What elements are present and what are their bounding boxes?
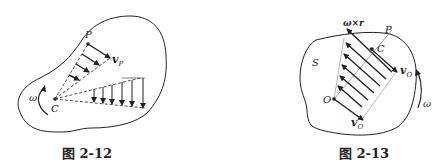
omega-rotation-arrow-icon — [418, 72, 421, 108]
label-omega: ω — [29, 92, 37, 103]
point-p-dot — [86, 42, 90, 46]
omega-rotation-arrow-icon — [38, 88, 48, 115]
label-p: P — [384, 24, 392, 35]
label-vp: vP — [112, 53, 123, 68]
figure-2-13-drawing: ω×r P C S vO ω O vO — [220, 0, 443, 168]
label-vo-top: vO — [400, 64, 412, 79]
rigid-body-s-outline — [300, 32, 416, 135]
label-p: P — [84, 29, 92, 40]
point-c-dot — [53, 97, 57, 101]
caption-fig-2-13: 图 2-13 — [339, 143, 389, 162]
envelope-right — [363, 72, 396, 118]
label-c: C — [51, 103, 59, 114]
rigid-body-outline — [18, 16, 166, 132]
label-omega: ω — [423, 98, 431, 109]
label-c: C — [377, 43, 385, 54]
figure-2-13: ω×r P C S vO ω O vO 图 2-13 — [220, 0, 443, 168]
figure-2-12: P vP ω C 图 2-12 — [0, 0, 220, 168]
caption-fig-2-12: 图 2-12 — [62, 143, 112, 162]
label-omega-cross-r: ω×r — [343, 18, 365, 28]
label-o: O — [323, 94, 331, 105]
point-o-dot — [332, 97, 336, 101]
omega-cross-r-vectors — [338, 29, 392, 107]
point-c-dot — [370, 47, 374, 51]
label-s: S — [312, 57, 319, 68]
